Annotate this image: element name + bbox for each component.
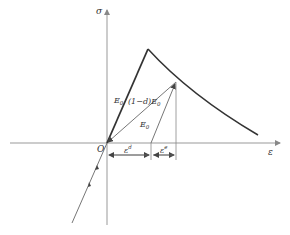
stress-axis-label: σ bbox=[96, 6, 103, 16]
origin-label: O bbox=[97, 144, 105, 154]
strain-axis-label: ε bbox=[268, 147, 273, 157]
elastic-unloading-line bbox=[151, 84, 175, 143]
damage-strain-label: εd bbox=[124, 144, 132, 155]
stress-strain-diagram: σ ε O E0 (1−d)E0 E0 εd εe bbox=[0, 0, 290, 235]
unloading-modulus-label: E0 bbox=[139, 120, 150, 130]
damaged-secant-line bbox=[108, 82, 176, 142]
elastic-strain-label: εe bbox=[160, 144, 168, 155]
loading-modulus-label: E0 bbox=[113, 96, 124, 106]
damaged-modulus-label: (1−d)E0 bbox=[128, 97, 161, 107]
compression-arrow-1 bbox=[95, 165, 99, 170]
